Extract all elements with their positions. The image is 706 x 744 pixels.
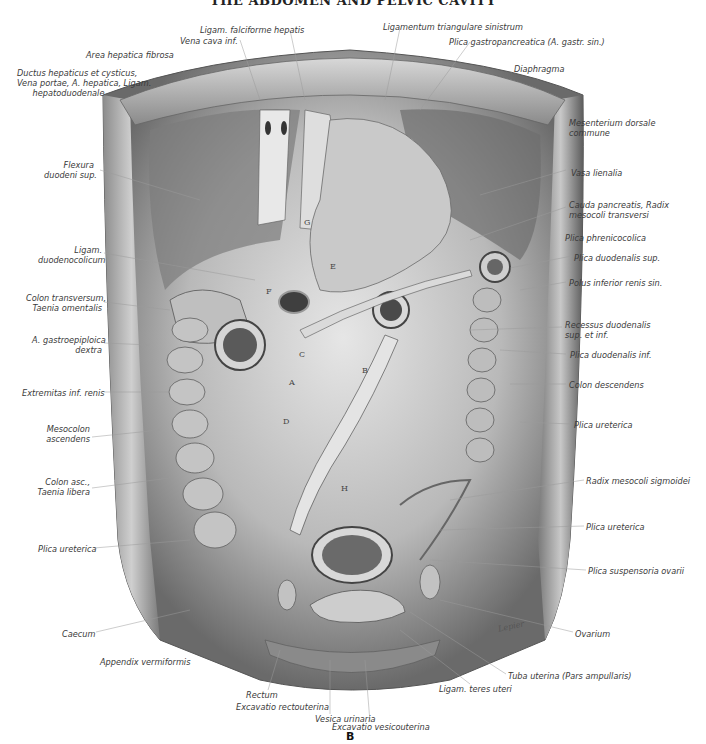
label-mesocolon-ascendens: Mesocolon ascendens — [44, 424, 90, 444]
label-diaphragma: Diaphragma — [514, 64, 565, 74]
label-rectum: Rectum — [246, 690, 278, 700]
label-ligamentum-triangulare: Ligamentum triangulare sinistrum — [383, 22, 523, 32]
region-letter-b: B — [362, 366, 368, 375]
label-plica-duodenalis-sup: Plica duodenalis sup. — [574, 253, 660, 263]
label-vena-cava: Vena cava inf. — [180, 36, 238, 46]
label-ligam-duodenocolicum: Ligam. duodenocolicum — [38, 245, 102, 265]
figure-id: B — [346, 730, 354, 743]
label-tuba-uterina: Tuba uterina (Pars ampullaris) — [508, 671, 632, 681]
region-letter-c: C — [299, 350, 305, 359]
label-plica-phrenicocolica: Plica phrenicocolica — [565, 233, 646, 243]
label-ligam-teres: Ligam. teres uteri — [439, 684, 512, 694]
label-plica-ureterica-left: Plica ureterica — [38, 544, 92, 554]
label-area-hepatica: Area hepatica fibrosa — [86, 50, 174, 60]
label-recessus-duodenalis: Recessus duodenalis sup. et inf. — [565, 320, 651, 340]
region-letter-a: A — [289, 378, 295, 387]
label-excavatio-rectouterina: Excavatio rectouterina — [236, 702, 329, 712]
label-ovarium: Ovarium — [575, 629, 610, 639]
label-caecum: Caecum — [62, 629, 95, 639]
label-polus-inferior: Polus inferior renis sin. — [569, 278, 662, 288]
label-mesenterium-dorsale: Mesenterium dorsale commune — [569, 118, 655, 138]
label-extremitas-inf-renis: Extremitas inf. renis — [22, 388, 102, 398]
region-letter-e: E — [330, 262, 336, 271]
label-flexura-duodeni: Flexura duodeni sup. — [44, 160, 94, 180]
label-plica-duodenalis-inf: Plica duodenalis inf. — [570, 350, 652, 360]
label-radix-mesocoli: Radix mesocoli sigmoidei — [586, 476, 690, 486]
region-letter-d: D — [283, 417, 289, 426]
label-colon-descendens: Colon descendens — [569, 380, 644, 390]
label-plica-suspensoria: Plica suspensoria ovarii — [588, 566, 684, 576]
label-plica-ureterica-right-2: Plica ureterica — [586, 522, 645, 532]
label-ligam-falciforme: Ligam. falciforme hepatis — [200, 25, 304, 35]
label-cauda-pancreatis: Cauda pancreatis, Radix mesocoli transve… — [569, 200, 669, 220]
label-colon-asc: Colon asc., Taenia libera — [36, 477, 90, 497]
label-plica-ureterica-right-1: Plica ureterica — [574, 420, 633, 430]
label-appendix: Appendix vermiformis — [100, 657, 190, 667]
region-letter-g: G — [304, 218, 310, 227]
label-plica-gastropancreatica: Plica gastropancreatica (A. gastr. sin.) — [449, 37, 605, 47]
label-vasa-lienalia: Vasa lienalia — [571, 168, 622, 178]
label-colon-transversum: Colon transversum, Taenia omentalis — [26, 293, 102, 313]
region-letter-f: F — [266, 287, 272, 296]
label-a-gastroepiploica: A. gastroepiploica dextra — [32, 335, 102, 355]
label-ductus-hepaticus: Ductus hepaticus et cysticus, Vena porta… — [17, 68, 151, 98]
region-letter-h: H — [341, 484, 348, 493]
